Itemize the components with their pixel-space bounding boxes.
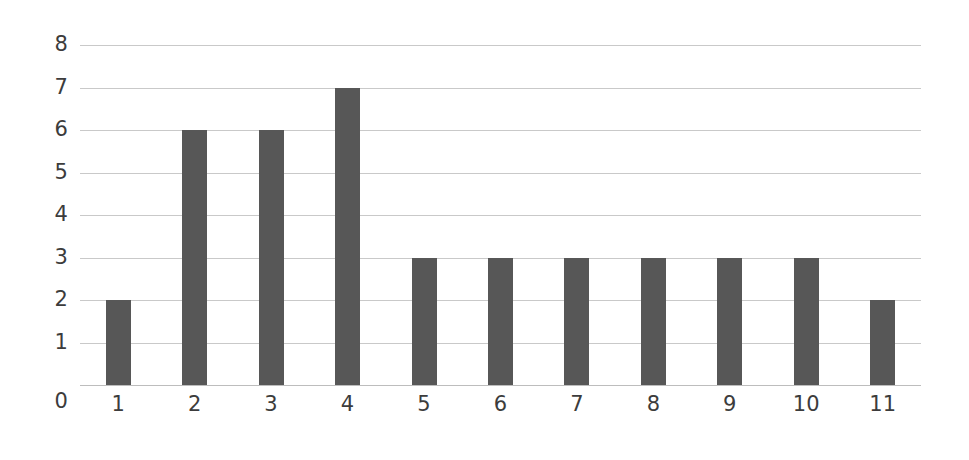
bar-4 (335, 88, 360, 386)
x-tick-label-11: 11 (853, 393, 913, 416)
gridline-0 (80, 385, 921, 386)
x-tick-label-7: 7 (547, 393, 607, 416)
bar-6 (488, 258, 513, 386)
x-axis: 1234567891011 (80, 393, 921, 433)
bar-8 (641, 258, 666, 386)
bar-series (80, 45, 921, 385)
y-tick-label-2: 2 (8, 289, 68, 310)
x-tick-label-10: 10 (776, 393, 836, 416)
bar-9 (717, 258, 742, 386)
bar-11 (870, 300, 895, 385)
bar-3 (259, 130, 284, 385)
x-tick-label-1: 1 (88, 393, 148, 416)
bar-5 (412, 258, 437, 386)
bar-1 (106, 300, 131, 385)
x-tick-label-4: 4 (318, 393, 378, 416)
x-tick-label-9: 9 (700, 393, 760, 416)
bar-10 (794, 258, 819, 386)
y-tick-label-4: 4 (8, 204, 68, 225)
x-tick-label-5: 5 (394, 393, 454, 416)
bar-2 (182, 130, 207, 385)
x-tick-label-2: 2 (165, 393, 225, 416)
plot-area (80, 45, 921, 385)
x-tick-label-6: 6 (471, 393, 531, 416)
y-tick-label-1: 1 (8, 332, 68, 353)
x-tick-label-3: 3 (241, 393, 301, 416)
y-tick-label-3: 3 (8, 247, 68, 268)
bar-chart: 012345678 1234567891011 (0, 0, 969, 460)
y-tick-label-0: 0 (8, 391, 68, 412)
bar-7 (564, 258, 589, 386)
y-tick-label-8: 8 (8, 34, 68, 55)
y-tick-label-7: 7 (8, 77, 68, 98)
y-axis: 012345678 (0, 0, 68, 460)
x-tick-label-8: 8 (623, 393, 683, 416)
y-tick-label-6: 6 (8, 119, 68, 140)
y-tick-label-5: 5 (8, 162, 68, 183)
